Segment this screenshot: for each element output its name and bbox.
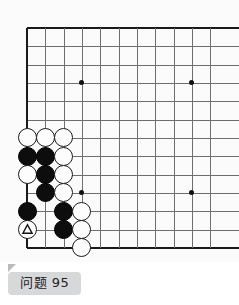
star-point: [79, 190, 84, 195]
go-stone-black[interactable]: [18, 147, 37, 166]
go-stone-black[interactable]: [36, 147, 55, 166]
grid-line-horizontal: [27, 101, 239, 102]
label-corner-fold: [8, 264, 16, 272]
triangle-mark-icon: [19, 221, 36, 238]
grid-line-vertical: [119, 28, 120, 248]
go-stone-black[interactable]: [54, 202, 73, 221]
star-point: [189, 80, 194, 85]
grid-line-horizontal: [27, 65, 239, 66]
go-problem-screen: 问题 95: [0, 0, 239, 305]
go-stone-white[interactable]: [72, 202, 91, 221]
grid-line-vertical: [100, 28, 101, 248]
problem-label-text: 问题 95: [20, 275, 69, 290]
go-board-container[interactable]: [0, 0, 239, 262]
grid-line-vertical: [210, 28, 211, 248]
go-stone-white[interactable]: [72, 238, 91, 257]
go-stone-white[interactable]: [54, 165, 73, 184]
go-stone-white[interactable]: [54, 147, 73, 166]
star-point: [79, 80, 84, 85]
grid-line-horizontal: [27, 83, 239, 84]
go-stone-black[interactable]: [36, 165, 55, 184]
star-point: [189, 190, 194, 195]
grid-line-horizontal: [27, 27, 239, 29]
grid-line-vertical: [155, 28, 156, 248]
go-stone-white[interactable]: [18, 165, 37, 184]
go-stone-white[interactable]: [72, 220, 91, 239]
go-stone-white-marked[interactable]: [18, 220, 37, 239]
go-stone-black[interactable]: [18, 202, 37, 221]
go-stone-white[interactable]: [54, 183, 73, 202]
go-stone-white[interactable]: [54, 128, 73, 147]
grid-line-horizontal: [27, 120, 239, 121]
grid-line-vertical: [174, 28, 175, 248]
grid-line-horizontal: [27, 46, 239, 47]
go-stone-black[interactable]: [54, 220, 73, 239]
go-stone-white[interactable]: [36, 128, 55, 147]
go-board[interactable]: [0, 0, 239, 262]
go-stone-black[interactable]: [36, 183, 55, 202]
grid-line-vertical: [137, 28, 138, 248]
go-stone-white[interactable]: [18, 128, 37, 147]
problem-label: 问题 95: [8, 272, 81, 295]
grid-line-horizontal: [27, 247, 239, 249]
grid-line-vertical: [192, 28, 193, 248]
